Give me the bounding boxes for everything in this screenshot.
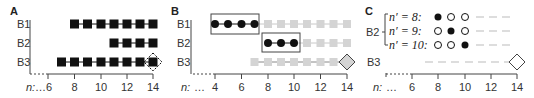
series-b2: [110, 39, 158, 48]
panel-c: C B2 n′ = 8: n′ = 9: n′ = 10: B3: [365, 5, 525, 93]
axis-prefix: n:: [26, 81, 35, 93]
axis-ellipsis: …: [194, 81, 205, 93]
tick-label: 12: [314, 81, 326, 93]
tick-label: 4: [212, 81, 218, 93]
tick-label: 8: [265, 81, 271, 93]
tick-label: 10: [459, 81, 471, 93]
sub-row-8: [435, 14, 511, 21]
panel-b-label: B: [171, 5, 179, 17]
series-b1: [70, 20, 158, 29]
axis-prefix: n:: [181, 81, 190, 93]
tick-label: 10: [288, 81, 300, 93]
tick-label: 6: [238, 81, 244, 93]
sub-row-label: n′ = 9:: [389, 24, 422, 38]
tick-label: 10: [95, 81, 107, 93]
sub-row-label: n′ = 8:: [389, 10, 422, 24]
panel-a: A B1 B2 B3 n: …6 8 10 12 14: [10, 5, 162, 93]
tick-label: 14: [341, 81, 353, 93]
panel-c-label: C: [365, 5, 373, 17]
x-axis-ticks: [215, 74, 347, 79]
sub-row-label: n′ = 10:: [389, 38, 428, 52]
panel-b: B B1 B2 B3 n: … 4 6 8 10 12 14: [171, 5, 355, 93]
row-label-b2: B2: [17, 37, 30, 49]
row-label-b3: B3: [367, 56, 380, 68]
tick-label: 8: [71, 81, 77, 93]
bracket: [382, 14, 388, 45]
group-label-b2: B2: [366, 26, 379, 38]
x-axis-ticks: [48, 74, 153, 79]
row-label-b3: B3: [177, 56, 190, 68]
series-b3: [425, 54, 525, 70]
tick-label: 8: [435, 81, 441, 93]
axis-prefix: n:: [373, 81, 382, 93]
tick-label: 12: [121, 81, 133, 93]
row-label-b3: B3: [17, 56, 30, 68]
series-b3: [251, 54, 356, 70]
series-b2: [262, 33, 351, 52]
tick-label: 12: [485, 81, 497, 93]
row-label-b2: B2: [177, 37, 190, 49]
row-label-b1: B1: [17, 18, 30, 30]
panel-a-label: A: [10, 5, 18, 17]
axis-ellipsis: …: [386, 81, 397, 93]
sub-row-9: [435, 28, 511, 35]
tick-label: 6: [409, 81, 415, 93]
series-b1: [211, 14, 351, 34]
series-b3: [57, 53, 162, 71]
diagram-canvas: A B1 B2 B3 n: …6 8 10 12 14: [0, 0, 534, 98]
diamond-icon: [509, 54, 525, 70]
tick-label: 14: [511, 81, 523, 93]
tick-label: …6: [35, 81, 52, 93]
sub-row-10: [435, 42, 511, 49]
diamond-icon: [339, 54, 355, 70]
row-label-b1: B1: [177, 18, 190, 30]
tick-label: 14: [147, 81, 159, 93]
x-axis-ticks: [412, 74, 517, 79]
